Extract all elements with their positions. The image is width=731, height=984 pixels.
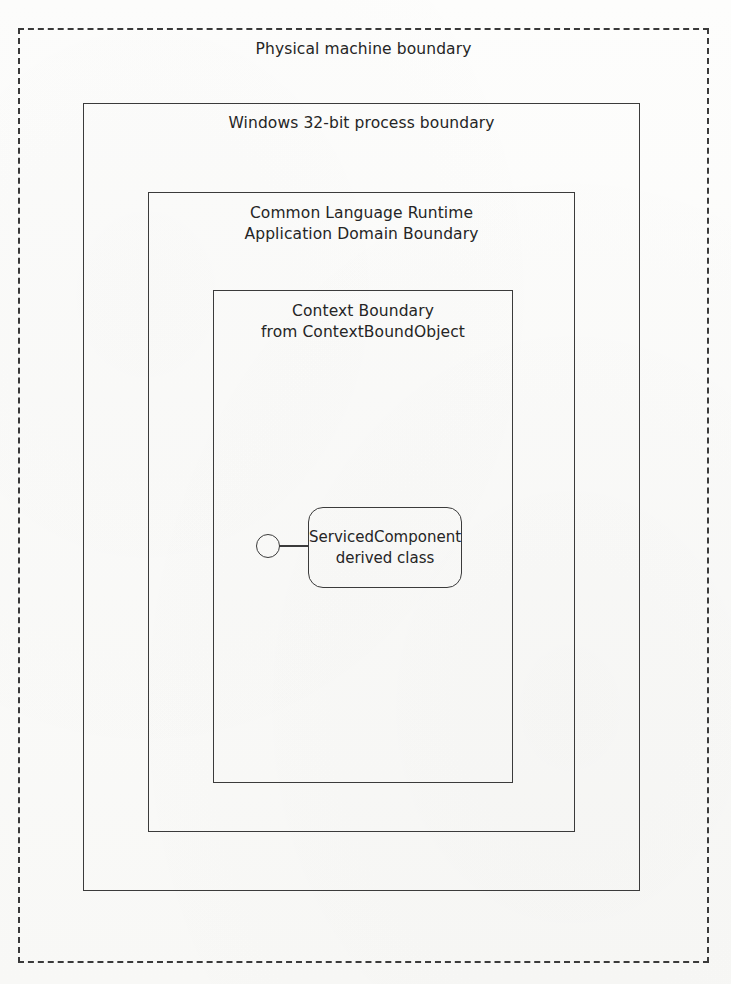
interface-connector-line (279, 545, 309, 547)
serviced-component-label: ServicedComponent derived class (309, 527, 461, 569)
lollipop-interface-icon (256, 534, 280, 558)
figure-canvas: Physical machine boundary Windows 32-bit… (0, 0, 731, 984)
serviced-component-group: ServicedComponent derived class (0, 0, 731, 984)
serviced-component-box: ServicedComponent derived class (308, 507, 462, 588)
